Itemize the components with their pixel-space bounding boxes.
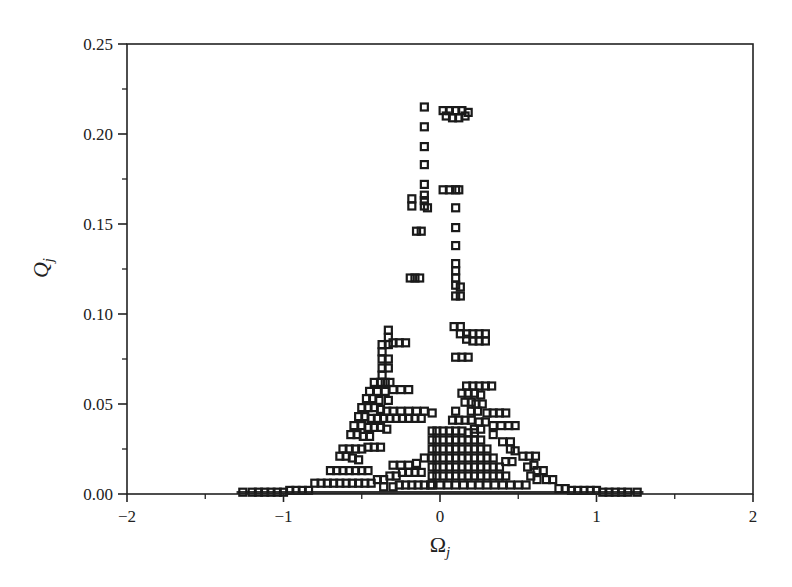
x-tick-label: 1 — [592, 507, 601, 526]
data-point — [452, 224, 459, 231]
data-point — [421, 161, 428, 168]
data-point — [421, 143, 428, 150]
data-point — [350, 422, 357, 429]
data-point — [421, 408, 428, 415]
x-tick-label: 2 — [749, 507, 758, 526]
data-point — [397, 408, 404, 415]
data-point — [477, 437, 484, 444]
data-point — [408, 195, 415, 202]
data-point — [402, 339, 409, 346]
data-point — [483, 446, 490, 453]
data-point — [366, 433, 373, 440]
data-point — [477, 392, 484, 399]
data-point — [491, 482, 498, 489]
data-point — [385, 327, 392, 334]
data-point — [383, 426, 390, 433]
data-point — [421, 181, 428, 188]
y-tick-label: 0.20 — [83, 125, 113, 144]
data-point — [499, 482, 506, 489]
x-axis-label: Ωj — [430, 532, 451, 560]
data-point — [488, 383, 495, 390]
data-point — [457, 284, 464, 291]
data-point — [413, 228, 420, 235]
data-point — [386, 379, 393, 386]
data-point — [380, 483, 387, 490]
data-point — [444, 482, 451, 489]
data-point — [374, 388, 381, 395]
data-point — [379, 365, 386, 372]
data-point — [355, 456, 362, 463]
data-point — [490, 455, 497, 462]
data-point — [452, 242, 459, 249]
data-point — [429, 410, 436, 417]
data-point — [405, 462, 412, 469]
data-point — [452, 408, 459, 415]
data-point — [379, 341, 386, 348]
data-point — [405, 408, 412, 415]
data-point — [416, 275, 423, 282]
data-point — [421, 455, 428, 462]
data-point — [421, 123, 428, 130]
data-point — [507, 482, 514, 489]
data-point — [413, 408, 420, 415]
data-point — [385, 356, 392, 363]
data-point — [532, 453, 539, 460]
data-point — [482, 330, 489, 337]
data-point — [390, 386, 397, 393]
data-point — [452, 204, 459, 211]
data-point — [490, 422, 497, 429]
data-point — [507, 438, 514, 445]
data-point — [377, 444, 384, 451]
x-tick-label: −2 — [118, 507, 136, 526]
data-point — [418, 415, 425, 422]
y-tick-label: 0.05 — [83, 395, 113, 414]
y-tick-label: 0.10 — [83, 305, 113, 324]
data-point — [502, 473, 509, 480]
data-point — [457, 323, 464, 330]
y-tick-label: 0.15 — [83, 215, 113, 234]
y-axis-label: Qj — [28, 258, 56, 278]
data-point — [418, 469, 425, 476]
data-point — [365, 467, 372, 474]
data-point — [390, 462, 397, 469]
data-point — [534, 476, 541, 483]
y-tick-label: 0.25 — [83, 35, 113, 54]
y-axis-ticks: 0.000.050.100.150.200.25 — [83, 35, 127, 504]
data-point — [437, 482, 444, 489]
data-point — [405, 386, 412, 393]
data-point — [379, 348, 386, 355]
data-point — [512, 447, 519, 454]
data-point — [457, 293, 464, 300]
data-point — [465, 354, 472, 361]
scatter-chart: −2−1012 0.000.050.100.150.200.25 Ωj Qj — [0, 0, 792, 587]
data-point — [498, 422, 505, 429]
data-point — [382, 388, 389, 395]
data-point — [482, 419, 489, 426]
data-point — [523, 482, 530, 489]
data-point — [413, 460, 420, 467]
data-point — [515, 482, 522, 489]
scatter-points — [237, 104, 644, 496]
data-point — [540, 467, 547, 474]
data-point — [479, 401, 486, 408]
data-point — [499, 438, 506, 445]
data-point — [452, 260, 459, 267]
data-point — [385, 397, 392, 404]
data-point — [408, 203, 415, 210]
data-point — [452, 275, 459, 282]
data-point — [397, 386, 404, 393]
data-point — [502, 410, 509, 417]
data-point — [483, 482, 490, 489]
data-point — [468, 482, 475, 489]
data-point — [429, 482, 436, 489]
data-point — [476, 482, 483, 489]
data-point — [460, 482, 467, 489]
data-point — [379, 372, 386, 379]
data-point — [390, 408, 397, 415]
data-point — [397, 462, 404, 469]
data-point — [477, 426, 484, 433]
data-point — [474, 408, 481, 415]
data-point — [452, 482, 459, 489]
data-point — [549, 476, 556, 483]
data-point — [375, 397, 382, 404]
